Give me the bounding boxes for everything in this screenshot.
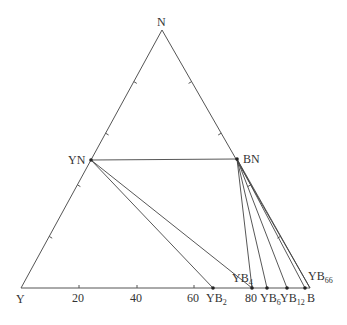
tie-line-yn-bn bbox=[91, 159, 237, 160]
right-edge-tick bbox=[189, 82, 192, 84]
left-edge-tick bbox=[106, 133, 109, 135]
phase-label-yb4: YB4 bbox=[232, 271, 253, 287]
triangle-edges bbox=[21, 30, 310, 288]
vertex-label-b: B bbox=[307, 291, 315, 305]
labels: NYB20406080YNBNYB2YB4YB6YB12YB66 bbox=[16, 15, 333, 307]
phase-point-yn bbox=[89, 158, 93, 162]
tie-lines bbox=[91, 159, 310, 288]
left-edge-tick bbox=[77, 185, 80, 187]
phase-point-yb6 bbox=[265, 286, 269, 290]
tie-line-yn-yb2 bbox=[91, 160, 213, 288]
tie-line-bn-yb66 bbox=[237, 159, 305, 288]
phase-label-yn: YN bbox=[68, 153, 86, 167]
tie-line-bn-yb6 bbox=[237, 159, 267, 288]
phase-point-yb12 bbox=[285, 286, 289, 290]
ternary-plot: NYB20406080YNBNYB2YB4YB6YB12YB66 bbox=[0, 0, 347, 325]
phase-label-yb12: YB12 bbox=[280, 291, 305, 307]
bottom-tick-label: 40 bbox=[130, 291, 142, 305]
phase-label-yb2: YB2 bbox=[206, 291, 227, 307]
tie-line-bn-b bbox=[237, 159, 310, 288]
phase-label-bn: BN bbox=[243, 152, 260, 166]
vertex-label-y: Y bbox=[16, 292, 25, 306]
phase-points bbox=[89, 157, 307, 290]
bottom-tick-label: 20 bbox=[72, 291, 84, 305]
phase-point-bn bbox=[235, 157, 239, 161]
phase-point-yb2 bbox=[211, 286, 215, 290]
phase-label-yb66: YB66 bbox=[308, 269, 333, 285]
left-edge-tick bbox=[134, 82, 137, 84]
right-edge-tick bbox=[218, 133, 221, 135]
axis-ticks bbox=[49, 82, 280, 288]
tie-line-yn-yb4 bbox=[91, 160, 252, 288]
triangle-outline bbox=[21, 30, 310, 288]
ternary-diagram: NYB20406080YNBNYB2YB4YB6YB12YB66 bbox=[0, 0, 347, 325]
vertex-label-n: N bbox=[157, 15, 166, 29]
left-edge-tick bbox=[49, 236, 52, 238]
bottom-tick-label: 60 bbox=[187, 291, 199, 305]
phase-point-yb66 bbox=[303, 286, 307, 290]
phase-label-yb6: YB6 bbox=[260, 291, 281, 307]
bottom-tick-label: 80 bbox=[245, 291, 257, 305]
